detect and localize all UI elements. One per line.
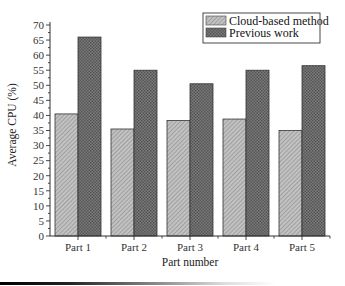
legend-swatch-previous-work bbox=[206, 28, 226, 37]
bottom-divider bbox=[0, 282, 345, 285]
legend-label: Previous work bbox=[229, 26, 299, 40]
y-axis-title: Average CPU (%) bbox=[6, 83, 19, 167]
bar-previous-work-4 bbox=[246, 70, 269, 236]
y-tick-label: 35 bbox=[33, 124, 45, 136]
x-axis-title: Part number bbox=[162, 256, 219, 268]
y-tick-label: 10 bbox=[33, 200, 45, 212]
bar-cloud-based-4 bbox=[223, 119, 246, 236]
x-tick-label: Part 3 bbox=[177, 241, 203, 253]
y-tick-label: 20 bbox=[33, 170, 45, 182]
bar-cloud-based-2 bbox=[111, 129, 134, 236]
x-tick-label: Part 5 bbox=[289, 241, 315, 253]
bars-group bbox=[55, 37, 325, 236]
y-tick-label: 70 bbox=[33, 19, 45, 31]
bar-previous-work-5 bbox=[302, 66, 325, 236]
y-tick-label: 55 bbox=[33, 64, 45, 76]
bar-previous-work-1 bbox=[78, 37, 101, 236]
y-tick-label: 65 bbox=[33, 34, 45, 46]
x-tick-label: Part 2 bbox=[121, 241, 147, 253]
y-tick-label: 5 bbox=[39, 215, 45, 227]
y-tick-label: 50 bbox=[33, 79, 45, 91]
y-tick-label: 60 bbox=[33, 49, 45, 61]
y-tick-label: 30 bbox=[33, 139, 45, 151]
y-tick-label: 15 bbox=[33, 185, 45, 197]
y-tick-label: 40 bbox=[33, 109, 45, 121]
x-axis: Part 1Part 2Part 3Part 4Part 5 bbox=[50, 236, 330, 253]
x-tick-label: Part 1 bbox=[65, 241, 91, 253]
legend: Cloud-based methodPrevious work bbox=[203, 13, 329, 43]
bar-previous-work-2 bbox=[134, 70, 157, 236]
x-tick-label: Part 4 bbox=[233, 241, 259, 253]
y-axis: 0510152025303540455055606570 bbox=[33, 19, 50, 242]
bar-cloud-based-3 bbox=[167, 121, 190, 236]
bar-previous-work-3 bbox=[190, 84, 213, 236]
legend-swatch-cloud-based bbox=[206, 16, 226, 25]
y-tick-label: 0 bbox=[39, 230, 45, 242]
y-tick-label: 25 bbox=[33, 154, 45, 166]
bar-cloud-based-5 bbox=[279, 131, 302, 237]
bar-chart: 0510152025303540455055606570 Part 1Part … bbox=[0, 0, 345, 286]
bar-cloud-based-1 bbox=[55, 114, 78, 236]
y-tick-label: 45 bbox=[33, 94, 45, 106]
